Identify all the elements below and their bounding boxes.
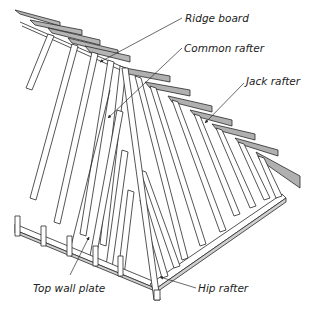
label-top-wall-plate: Top wall plate (33, 283, 105, 294)
label-jack-rafter: Jack rafter (246, 76, 300, 87)
hip-rafter (122, 68, 160, 300)
ridge-board-leader (100, 18, 182, 62)
label-ridge-board: Ridge board (185, 13, 249, 24)
label-common-rafter: Common rafter (184, 43, 264, 54)
hip-roof-diagram (0, 0, 313, 309)
jack-rafter-leader (205, 83, 244, 123)
label-hip-rafter: Hip rafter (198, 283, 248, 294)
